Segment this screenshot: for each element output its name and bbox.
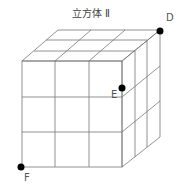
label-f: F — [24, 172, 30, 183]
point-d — [157, 28, 164, 35]
label-e: E — [111, 89, 117, 100]
label-d: D — [166, 12, 174, 23]
point-f — [18, 164, 25, 171]
point-e — [119, 85, 126, 92]
cube-diagram — [0, 0, 182, 196]
